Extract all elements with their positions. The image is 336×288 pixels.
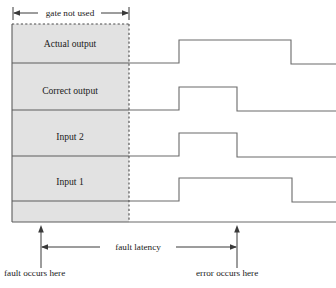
- waveform-correct-output: [129, 87, 336, 111]
- fault-latency-label: fault latency: [115, 242, 161, 252]
- gate-annotation-right-arrow-head: [122, 10, 129, 16]
- waveform-input-1: [129, 178, 336, 202]
- gate-not-used-label: gate not used: [46, 8, 95, 18]
- signal-label-actual-output: Actual output: [44, 38, 97, 49]
- signal-label-input-2: Input 2: [56, 131, 84, 142]
- signal-label-input-1: Input 1: [56, 176, 84, 187]
- fault-latency-right-arrow-head: [230, 244, 237, 250]
- error-occurs-here-label: error occurs here: [196, 268, 258, 278]
- fault-occurs-here-label: fault occurs here: [4, 268, 65, 278]
- waveform-actual-output: [129, 40, 336, 64]
- timing-diagram: gate not used Actual output Correct outp…: [0, 0, 336, 288]
- signal-label-correct-output: Correct output: [42, 85, 98, 96]
- fault-marker-arrow-head: [38, 225, 44, 233]
- fault-latency-left-arrow-head: [41, 244, 48, 250]
- gate-not-used-annotation: gate not used: [13, 7, 129, 20]
- timing-diagram-canvas: gate not used Actual output Correct outp…: [0, 0, 336, 288]
- error-marker-arrow-head: [234, 225, 240, 233]
- gate-annotation-left-arrow-head: [13, 10, 20, 16]
- gate-not-used-shaded-region: [12, 24, 129, 222]
- waveform-input-2: [129, 133, 336, 157]
- fault-latency-annotation: fault latency: [41, 242, 237, 252]
